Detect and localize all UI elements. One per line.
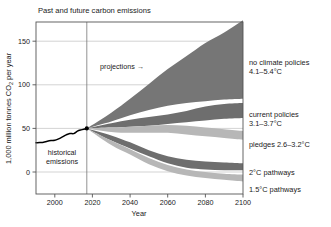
ytick-label-50: 50 bbox=[22, 124, 30, 133]
chart-title: Past and future carbon emissions bbox=[38, 6, 151, 15]
ytick-label-150: 150 bbox=[18, 37, 30, 46]
side-label-pledges: pledges 2.6–3.2°C bbox=[249, 140, 311, 149]
historical-emissions-line bbox=[36, 128, 87, 142]
emissions-chart-svg: Past and future carbon emissions 1,000 m… bbox=[0, 0, 331, 227]
y-axis-label: 1,000 million tonnes CO2 per year bbox=[4, 52, 14, 164]
xtick-label-2040: 2040 bbox=[122, 198, 138, 207]
y-axis-label-main: 1,000 million tonnes CO bbox=[4, 85, 13, 164]
ytick-label-100: 100 bbox=[18, 80, 30, 89]
side-label-two-degree-pathways: 2°C pathways bbox=[249, 168, 295, 177]
y-axis-ticks: 150 100 50 0 bbox=[18, 37, 36, 177]
side-label-no-climate-policies-line1: no climate policies bbox=[249, 58, 310, 67]
side-label-no-climate-policies-line2: 4.1–5.4°C bbox=[249, 67, 283, 76]
x-axis-ticks: 2000 2020 2040 2060 2080 2100 Year bbox=[47, 194, 251, 218]
xtick-label-2060: 2060 bbox=[160, 198, 176, 207]
x-axis-label: Year bbox=[132, 209, 147, 218]
side-label-one-point-five-pathways: 1.5°C pathways bbox=[249, 185, 301, 194]
historical-emissions-annotation-line1: historical bbox=[48, 148, 77, 157]
xtick-label-2020: 2020 bbox=[84, 198, 100, 207]
xtick-label-2080: 2080 bbox=[197, 198, 213, 207]
projections-annotation: projections → bbox=[100, 62, 144, 71]
historical-endpoint-marker bbox=[85, 126, 89, 130]
ytick-label-0: 0 bbox=[26, 168, 30, 177]
emission-bands bbox=[87, 20, 243, 181]
historical-emissions-annotation-line2: emissions bbox=[46, 157, 78, 166]
side-label-current-policies-line1: current policies bbox=[249, 110, 299, 119]
xtick-label-2000: 2000 bbox=[47, 198, 63, 207]
side-labels: no climate policies 4.1–5.4°C current po… bbox=[249, 58, 311, 194]
y-axis-label-tail: per year bbox=[4, 52, 13, 82]
side-label-current-policies-line2: 3.1–3.7°C bbox=[249, 119, 283, 128]
chart-figure: Past and future carbon emissions 1,000 m… bbox=[0, 0, 331, 227]
y-axis-label-group: 1,000 million tonnes CO2 per year bbox=[4, 52, 14, 164]
xtick-label-2100: 2100 bbox=[235, 198, 251, 207]
